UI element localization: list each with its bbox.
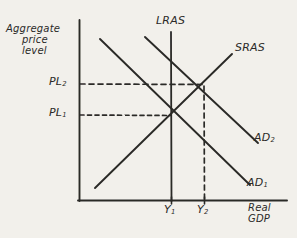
curve-label-lras: LRAS <box>156 15 185 27</box>
y-axis-title-line2: price <box>6 35 60 46</box>
y-tick-label-pl1-sub: 1 <box>62 111 66 119</box>
x-tick-label-y2-text: Y <box>197 203 204 216</box>
x-tick-label-y2: Y2 <box>197 204 208 217</box>
curve-label-sras: SRAS <box>235 42 265 54</box>
curve-label-ad1-sub: 1 <box>263 181 267 189</box>
curve-label-sras-text: SRAS <box>235 41 265 54</box>
y-tick-label-pl1-text: PL <box>49 106 62 119</box>
curve-label-ad2-sub: 2 <box>270 136 274 144</box>
guide-pl1 <box>80 115 171 116</box>
curve-label-ad1-text: AD <box>247 176 263 189</box>
x-axis-title: RealGDP <box>248 203 271 225</box>
x-tick-label-y1-text: Y <box>164 203 171 216</box>
y-axis-title-line3: level <box>6 46 60 57</box>
ad-as-diagram: Aggregatepricelevel RealGDP LRAS SRAS AD… <box>0 0 297 238</box>
curve-lras <box>171 32 172 201</box>
curve-label-ad2: AD2 <box>254 132 275 145</box>
y-axis-title: Aggregatepricelevel <box>6 24 60 56</box>
y-axis-title-line1: Aggregate <box>6 23 60 34</box>
guide-pl2 <box>80 84 204 85</box>
curve-label-lras-text: LRAS <box>156 14 185 27</box>
y-tick-label-pl1: PL1 <box>49 107 67 120</box>
x-tick-label-y1-sub: 1 <box>171 208 175 216</box>
y-tick-label-pl2-sub: 2 <box>62 80 66 88</box>
x-tick-label-y2-sub: 2 <box>204 208 208 216</box>
y-tick-label-pl2: PL2 <box>49 76 67 89</box>
x-axis-title-line1: Real <box>248 202 271 213</box>
x-axis-title-line2: GDP <box>248 214 271 225</box>
curve-label-ad2-text: AD <box>254 131 270 144</box>
curve-ad1 <box>100 39 250 185</box>
guide-y2 <box>204 86 205 200</box>
x-tick-label-y1: Y1 <box>164 204 175 217</box>
y-tick-label-pl2-text: PL <box>49 75 62 88</box>
curve-label-ad1: AD1 <box>247 177 268 190</box>
curve-sras <box>95 54 232 188</box>
